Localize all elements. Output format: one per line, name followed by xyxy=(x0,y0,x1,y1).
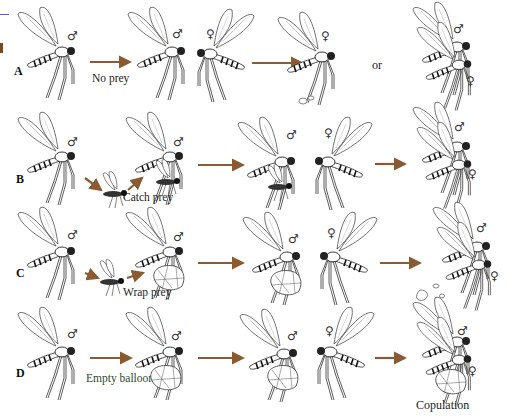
mating-pair xyxy=(413,2,471,110)
male-fly xyxy=(126,112,183,205)
dropped-debris xyxy=(299,96,314,104)
male-fly xyxy=(18,112,75,205)
courtship-diagram: A B C D No prey or Catch prey Wrap prey … xyxy=(0,0,507,419)
male-fly xyxy=(18,7,75,100)
male-fly xyxy=(238,117,295,210)
prey-fly xyxy=(103,172,127,208)
female-fly xyxy=(317,307,374,400)
female-fly xyxy=(278,12,335,105)
male-fly xyxy=(128,7,185,100)
prey-fly xyxy=(100,260,124,296)
flies-layer xyxy=(0,0,507,419)
female-fly xyxy=(320,212,377,305)
empty-balloon xyxy=(151,365,181,390)
mating-pair xyxy=(413,102,471,210)
empty-balloon xyxy=(436,369,466,394)
female-fly xyxy=(315,117,372,210)
female-fly xyxy=(197,9,254,102)
male-fly xyxy=(18,207,75,300)
male-fly xyxy=(18,307,75,400)
empty-balloon xyxy=(268,365,298,390)
